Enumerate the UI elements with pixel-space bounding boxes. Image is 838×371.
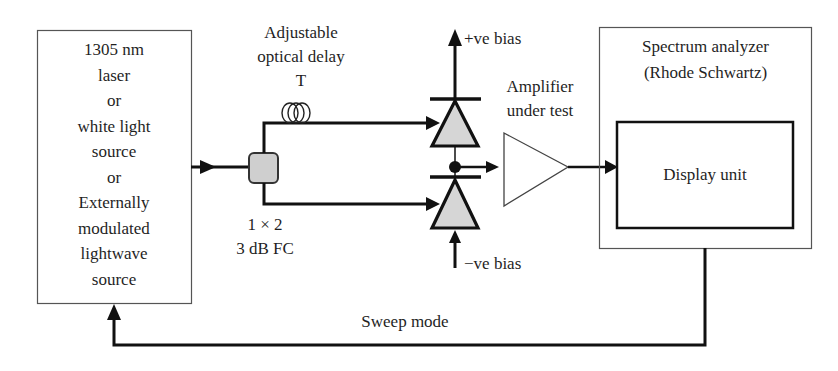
fiber-coupler (249, 153, 278, 183)
delay-label: Adjustable optical delay T (236, 21, 366, 93)
positive-bias-label: +ve bias (464, 26, 521, 52)
source-line: modulated (37, 216, 191, 242)
analyzer-line: (Rhode Schwartz) (600, 60, 811, 86)
coupler-label: 1 × 2 3 dB FC (210, 213, 320, 261)
source-line: or (37, 88, 191, 114)
sweep-mode-arrow-icon (107, 304, 121, 320)
display-unit-label: Display unit (617, 162, 793, 188)
delay-line: Adjustable (236, 21, 366, 45)
negative-bias-arrow-icon (449, 230, 461, 243)
source-line: 1305 nm (37, 37, 191, 63)
source-line: or (37, 165, 191, 191)
upper-branch-arrow-icon (426, 116, 440, 130)
source-label: 1305 nm laser or white light source or E… (37, 37, 191, 292)
source-arrow-icon (200, 160, 216, 174)
source-line: source (37, 267, 191, 293)
source-line: source (37, 139, 191, 165)
delay-line: optical delay (236, 45, 366, 69)
upper-branch-line (264, 123, 432, 153)
sweep-mode-label: Sweep mode (330, 309, 480, 335)
lower-branch-arrow-icon (426, 197, 440, 211)
source-line: Externally (37, 190, 191, 216)
amplifier-icon (504, 133, 568, 206)
node-to-amplifier-arrow-icon (486, 161, 499, 173)
lower-branch-line (264, 183, 432, 204)
delay-symbol: T (236, 69, 366, 93)
fiber-coil-icon (282, 103, 310, 123)
amplifier-label: Amplifier under test (480, 75, 600, 123)
negative-bias-label: −ve bias (464, 251, 521, 277)
source-line: lightwave (37, 241, 191, 267)
coupler-line: 1 × 2 (210, 213, 320, 237)
analyzer-line: Spectrum analyzer (600, 34, 811, 60)
coupler-line: 3 dB FC (210, 237, 320, 261)
lower-photodiode-icon (430, 177, 481, 228)
amplifier-line: under test (480, 99, 600, 123)
source-line: laser (37, 63, 191, 89)
analyzer-label: Spectrum analyzer (Rhode Schwartz) (600, 34, 811, 86)
positive-bias-arrow-icon (448, 29, 462, 46)
source-line: white light (37, 114, 191, 140)
amplifier-line: Amplifier (480, 75, 600, 99)
